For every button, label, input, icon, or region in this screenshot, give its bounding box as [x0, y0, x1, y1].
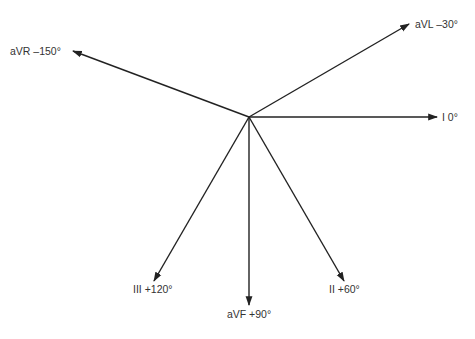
- lead-aVR: aVR –150°: [10, 45, 249, 117]
- lead-II: II +60°: [249, 117, 360, 295]
- lead-aVF: aVF +90°: [227, 117, 271, 320]
- II-label: II +60°: [329, 283, 360, 295]
- III-label: III +120°: [133, 283, 173, 295]
- lead-III: III +120°: [133, 117, 249, 295]
- II-axis-arrow: [249, 117, 344, 281]
- aVR-axis-arrow: [73, 51, 249, 117]
- lead-I: I 0°: [249, 111, 458, 123]
- aVF-label: aVF +90°: [227, 308, 271, 320]
- aVL-axis-arrow: [249, 24, 409, 117]
- aVR-label: aVR –150°: [10, 45, 61, 57]
- hexaxial-diagram: aVR –150° aVL –30° I 0° II +60° aVF +90°…: [0, 0, 475, 339]
- aVL-label: aVL –30°: [415, 18, 458, 30]
- III-axis-arrow: [154, 117, 249, 281]
- I-label: I 0°: [442, 111, 458, 123]
- lead-aVL: aVL –30°: [249, 18, 458, 117]
